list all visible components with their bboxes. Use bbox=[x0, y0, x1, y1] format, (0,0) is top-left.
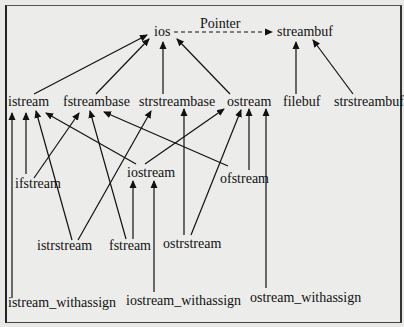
node-fstream: fstream bbox=[109, 239, 151, 253]
class-hierarchy-diagram: Pointer bbox=[0, 0, 404, 327]
edge-istream-ios bbox=[34, 35, 147, 94]
node-strstreambase: strstreambase bbox=[139, 95, 215, 109]
node-istream: istream bbox=[8, 95, 49, 109]
edge-ostream-ios bbox=[177, 39, 230, 94]
node-fstreambase: fstreambase bbox=[63, 95, 130, 109]
edge-ofstream-fstreambase bbox=[104, 112, 228, 166]
node-filebuf: filebuf bbox=[283, 95, 320, 109]
edge-strstreambuf-streambuf bbox=[313, 40, 353, 94]
node-iostream_withassign: iostream_withassign bbox=[126, 294, 241, 308]
node-ofstream: ofstream bbox=[220, 172, 269, 186]
node-ostrstream: ostrstream bbox=[163, 237, 221, 251]
edge-ifstream-fstreambase bbox=[34, 113, 79, 178]
node-strstreambuf: strstreambuf bbox=[334, 95, 404, 109]
node-ifstream: ifstream bbox=[15, 177, 61, 191]
node-ios: ios bbox=[154, 25, 170, 39]
node-streambuf: streambuf bbox=[277, 25, 333, 39]
edge-label-pointer: Pointer bbox=[200, 16, 241, 31]
node-iostream: iostream bbox=[127, 166, 175, 180]
node-ostream: ostream bbox=[227, 95, 271, 109]
node-ostream_withassign: ostream_withassign bbox=[250, 291, 361, 305]
edge-fstream-fstreambase bbox=[90, 111, 126, 239]
node-istream_withassign: istream_withassign bbox=[8, 296, 116, 310]
node-istrstream: istrstream bbox=[37, 239, 92, 253]
